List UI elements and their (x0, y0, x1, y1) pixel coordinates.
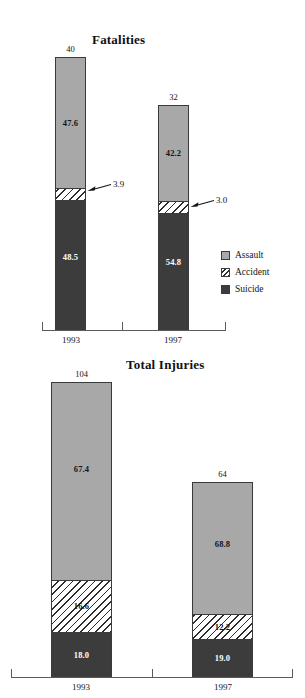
fatalities-axis-label-1993: 1993 (50, 336, 92, 345)
fatalities-1993-accident-value: 3.9 (113, 180, 124, 189)
fatalities-1993-suicide-value: 48.5 (63, 253, 78, 262)
injuries-1993-total-label: 104 (51, 370, 112, 379)
legend-item-accident[interactable]: Accident (221, 265, 301, 280)
fatalities-axis-line (42, 330, 226, 331)
fatalities-1997-suicide-value: 54.8 (166, 258, 181, 267)
fatalities-axis-label-1997: 1997 (152, 336, 194, 345)
fatalities-1993-assault-value: 47.6 (63, 119, 78, 128)
legend-label-suicide: Suicide (235, 285, 264, 295)
fatalities-1993-accident-arrow-icon (86, 183, 112, 192)
fatalities-1993-total-label: 40 (55, 45, 86, 54)
fatalities-bar-1997[interactable]: 42.2 54.8 (158, 105, 189, 331)
injuries-1993-accident-segment[interactable]: 16.6 (52, 581, 111, 632)
injuries-1993-suicide-segment[interactable]: 18.0 (52, 633, 111, 677)
accident-swatch-icon (221, 268, 230, 277)
injuries-1997-accident-segment[interactable]: 12.2 (193, 615, 252, 639)
injuries-axis-tick-right (292, 669, 293, 677)
injuries-1997-suicide-segment[interactable]: 19.0 (193, 640, 252, 677)
fatalities-1997-assault-segment[interactable]: 42.2 (159, 106, 188, 201)
injuries-1997-total-label: 64 (192, 470, 253, 479)
fatalities-axis-tick-left (42, 322, 43, 330)
injuries-axis-line (11, 677, 293, 678)
injuries-axis-label-1997: 1997 (202, 683, 244, 692)
fatalities-panel: Fatalities 47.6 48.5 40 3.9 42.2 (0, 0, 305, 350)
fatalities-1997-total-label: 32 (158, 93, 189, 102)
legend-label-assault: Assault (235, 251, 264, 261)
suicide-swatch-icon (221, 285, 230, 294)
injuries-1997-assault-value: 68.8 (215, 540, 230, 549)
fatalities-1997-accident-segment[interactable] (159, 202, 188, 213)
fatalities-1997-suicide-segment[interactable]: 54.8 (159, 214, 188, 330)
assault-swatch-icon (221, 251, 230, 260)
injuries-1993-assault-segment[interactable]: 67.4 (52, 383, 111, 580)
injuries-bar-1997[interactable]: 68.8 12.2 19.0 (192, 482, 253, 678)
fatalities-bar-1993[interactable]: 47.6 48.5 (55, 57, 86, 331)
fatalities-1993-suicide-segment[interactable]: 48.5 (56, 201, 85, 330)
injuries-bar-1993[interactable]: 67.4 16.6 18.0 (51, 382, 112, 678)
total-injuries-panel: Total Injuries 67.4 16.6 18.0 104 68.8 1… (0, 350, 305, 698)
fatalities-1997-accident-value: 3.0 (216, 196, 227, 205)
injuries-axis-label-1993: 1993 (60, 683, 102, 692)
legend: Assault Accident Suicide (221, 248, 301, 299)
fatalities-axis-tick-right (225, 322, 226, 330)
injuries-1993-assault-value: 67.4 (74, 465, 89, 474)
injuries-1993-suicide-value: 18.0 (74, 651, 89, 660)
injuries-axis-tick-middle (152, 669, 153, 677)
total-injuries-chart-title: Total Injuries (126, 357, 205, 373)
fatalities-chart-title: Fatalities (92, 32, 145, 48)
legend-item-suicide[interactable]: Suicide (221, 282, 301, 297)
injuries-1997-suicide-value: 19.0 (215, 654, 230, 663)
legend-item-assault[interactable]: Assault (221, 248, 301, 263)
fatalities-1997-assault-value: 42.2 (166, 149, 181, 158)
fatalities-1993-assault-segment[interactable]: 47.6 (56, 58, 85, 188)
legend-label-accident: Accident (235, 268, 269, 278)
injuries-axis-tick-left (11, 669, 12, 677)
injuries-1997-accident-value: 12.2 (215, 623, 230, 632)
stacked-bar-figure: Fatalities 47.6 48.5 40 3.9 42.2 (0, 0, 305, 698)
injuries-1997-assault-segment[interactable]: 68.8 (193, 483, 252, 614)
fatalities-1993-accident-segment[interactable] (56, 189, 85, 200)
injuries-1993-accident-value: 16.6 (74, 602, 89, 611)
fatalities-axis-tick-middle (122, 322, 123, 330)
fatalities-1997-accident-arrow-icon (189, 199, 215, 208)
